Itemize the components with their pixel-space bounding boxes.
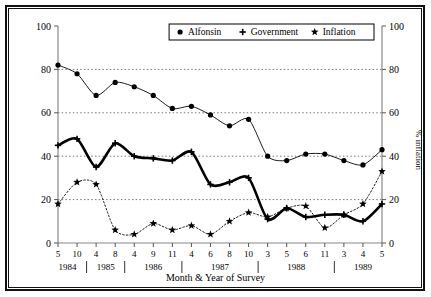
svg-text:1985: 1985 [97,262,116,272]
svg-text:6: 6 [304,249,309,259]
svg-text:5: 5 [284,249,289,259]
y-axis-right-ticks: 020406080100 [382,21,404,249]
svg-text:0: 0 [389,238,394,249]
svg-text:10: 10 [73,249,83,259]
svg-text:Inflation: Inflation [323,27,356,37]
x-axis-ticks: 5104849114681035611345 [56,243,385,259]
svg-text:11: 11 [168,249,177,259]
plot-area: 020406080100 020406080100 51048491146810… [0,0,431,297]
svg-text:9: 9 [151,249,156,259]
svg-text:1988: 1988 [287,262,306,272]
chart-figure: % positive evaluations % inflation Month… [0,0,431,297]
svg-text:4: 4 [94,249,99,259]
svg-text:6: 6 [208,249,213,259]
series-alfonsin [55,62,384,167]
svg-text:60: 60 [41,107,51,118]
svg-text:100: 100 [389,21,404,32]
data-series-layer [54,62,386,237]
chart-legend: AlfonsinGovernmentInflation [169,24,374,40]
year-group-labels: 198419851986198719881989 [59,261,373,273]
svg-text:3: 3 [265,249,270,259]
svg-text:100: 100 [36,21,51,32]
svg-text:8: 8 [227,249,232,259]
svg-text:20: 20 [41,194,51,205]
svg-text:4: 4 [361,249,366,259]
svg-text:1984: 1984 [59,262,78,272]
svg-text:8: 8 [113,249,118,259]
svg-text:4: 4 [132,249,137,259]
svg-text:Government: Government [251,27,299,37]
svg-text:60: 60 [389,107,399,118]
svg-text:40: 40 [41,151,51,162]
svg-text:1987: 1987 [211,262,230,272]
series-inflation [54,167,386,237]
svg-text:20: 20 [389,194,399,205]
svg-text:1989: 1989 [354,262,373,272]
svg-text:1986: 1986 [144,262,163,272]
svg-text:3: 3 [342,249,347,259]
svg-text:11: 11 [320,249,329,259]
svg-text:Alfonsin: Alfonsin [188,27,222,37]
svg-text:4: 4 [189,249,194,259]
svg-text:0: 0 [46,238,51,249]
series-government [55,136,385,225]
y-axis-left-ticks: 020406080100 [36,21,58,249]
axis-lines [58,26,382,243]
svg-text:80: 80 [389,64,399,75]
svg-text:5: 5 [56,249,61,259]
svg-text:40: 40 [389,151,399,162]
svg-text:5: 5 [380,249,385,259]
svg-text:80: 80 [41,64,51,75]
svg-text:10: 10 [244,249,254,259]
